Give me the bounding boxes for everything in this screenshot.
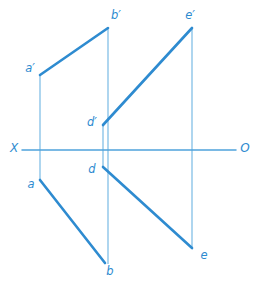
seg-ab-frontal bbox=[40, 28, 108, 75]
point-label-e: e bbox=[200, 248, 207, 262]
seg-ab-horizontal bbox=[40, 180, 105, 263]
projection-drawing-canvas: a′b′d′e′abdeXO bbox=[0, 0, 265, 293]
projection-diagram: a′b′d′e′abdeXO bbox=[0, 0, 265, 293]
axis-label-o: O bbox=[240, 141, 249, 155]
labels-group: a′b′d′e′abdeXO bbox=[9, 8, 250, 278]
point-label-a-prime: a′ bbox=[25, 61, 35, 75]
point-label-d-prime: d′ bbox=[87, 115, 97, 129]
point-label-a: a bbox=[27, 177, 34, 191]
point-label-b: b bbox=[106, 264, 113, 278]
point-label-d: d bbox=[88, 162, 96, 176]
segments-group bbox=[40, 28, 192, 263]
seg-de-frontal bbox=[103, 28, 192, 125]
seg-de-horizontal bbox=[103, 167, 192, 248]
point-label-b-prime: b′ bbox=[111, 8, 121, 22]
axis-label-x: X bbox=[9, 141, 19, 155]
point-label-e-prime: e′ bbox=[185, 8, 195, 22]
